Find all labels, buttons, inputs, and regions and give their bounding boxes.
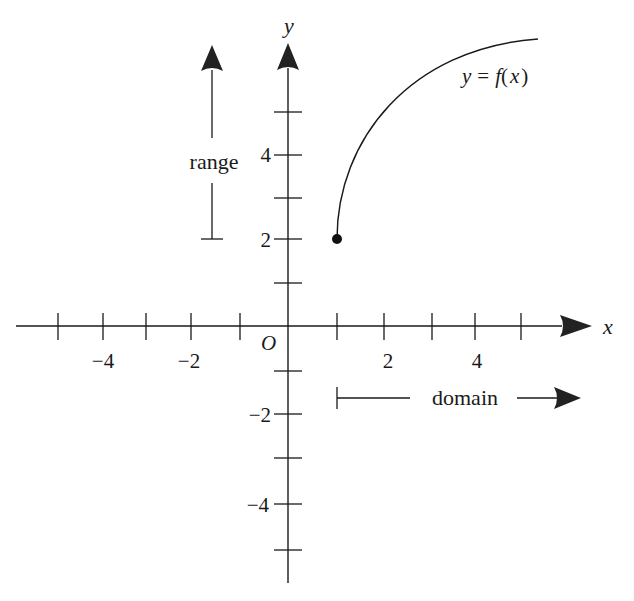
y-tick-label-4: 4 [261,143,272,167]
range-label: range [190,149,239,174]
y-tick-label-neg2: −2 [249,403,271,427]
domain-arrow-icon [554,387,581,409]
x-tick-label-2: 2 [383,349,394,373]
function-label: y=f(x) [460,64,528,88]
range-arrow-icon [201,45,223,71]
start-point-dot [332,234,342,244]
origin-label: O [261,331,276,355]
y-tick-label-neg4: −4 [247,493,270,517]
x-tick-label-neg4: −4 [92,349,115,373]
y-axis: y 4 2 −2 −4 [247,13,302,583]
x-axis-label: x [602,314,613,339]
y-tick-label-2: 2 [261,228,272,252]
y-axis-arrow-icon [277,43,299,70]
domain-range-diagram: x −4 −2 2 4 y 4 2 −2 −4 O y=f(x) [0,0,634,601]
domain-label: domain [432,385,498,410]
domain-annotation: domain [337,385,581,410]
y-axis-label: y [282,13,294,38]
x-tick-label-4: 4 [472,349,483,373]
x-axis-arrow-icon [560,315,592,337]
range-annotation: range [190,45,239,239]
x-axis: x −4 −2 2 4 [16,313,613,373]
x-tick-label-neg2: −2 [178,349,200,373]
